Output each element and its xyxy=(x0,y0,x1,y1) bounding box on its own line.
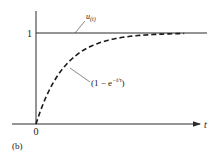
x-axis-arrowhead xyxy=(193,121,201,126)
curve-annotation-main: (1 − e xyxy=(91,78,112,88)
step-response-chart: 0 1 t (b) u(t) (1 − e−t/τ) xyxy=(0,0,215,159)
step-annotation-label: u(t) xyxy=(86,12,96,23)
x-axis-label: t xyxy=(204,119,207,130)
curve-annotation-leader xyxy=(70,68,90,82)
x-tick-label-0: 0 xyxy=(34,126,39,137)
curve-annotation-suffix: ) xyxy=(122,78,125,88)
panel-label: (b) xyxy=(12,141,23,151)
curve-annotation-label: (1 − e−t/τ) xyxy=(91,77,125,88)
step-annotation-subscript: (t) xyxy=(90,16,96,23)
y-tick-label-1: 1 xyxy=(27,28,32,39)
step-annotation-leader xyxy=(75,21,85,33)
